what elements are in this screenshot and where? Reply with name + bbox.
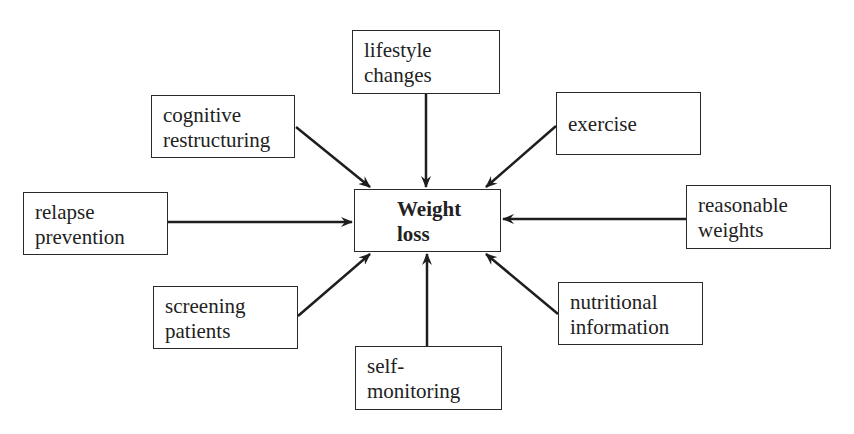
node-line: self- xyxy=(367,354,501,379)
node-line: patients xyxy=(165,319,297,344)
node-line: reasonable xyxy=(698,193,830,218)
arrow-exercise xyxy=(486,126,556,187)
arrow-screening-patients xyxy=(298,254,370,316)
node-line: restructuring xyxy=(163,128,294,153)
arrow-cognitive-restructuring xyxy=(296,127,370,187)
arrow-nutritional-information xyxy=(486,254,558,314)
node-line: screening xyxy=(165,294,297,319)
node-line: monitoring xyxy=(367,379,501,404)
node-line: exercise xyxy=(568,112,700,137)
self-monitoring-box: self- monitoring xyxy=(355,346,502,410)
node-line: weights xyxy=(698,218,830,243)
weight-loss-line-1: Weight xyxy=(397,197,500,222)
weight-loss-diagram: Weight loss lifestyle changes cognitive … xyxy=(0,0,854,434)
nutritional-information-box: nutritional information xyxy=(558,282,703,345)
node-line: nutritional xyxy=(570,290,702,315)
lifestyle-changes-box: lifestyle changes xyxy=(352,30,500,94)
node-line: lifestyle xyxy=(364,38,499,63)
node-line: prevention xyxy=(35,225,167,250)
weight-loss-line-2: loss xyxy=(397,222,500,247)
node-line: information xyxy=(570,315,702,340)
node-line: changes xyxy=(364,63,499,88)
node-line: cognitive xyxy=(163,103,294,128)
relapse-prevention-box: relapse prevention xyxy=(23,192,168,255)
exercise-box: exercise xyxy=(556,92,701,155)
reasonable-weights-box: reasonable weights xyxy=(686,185,831,249)
cognitive-restructuring-box: cognitive restructuring xyxy=(151,95,295,158)
screening-patients-box: screening patients xyxy=(153,286,298,349)
node-line: relapse xyxy=(35,200,167,225)
weight-loss-box: Weight loss xyxy=(354,189,501,252)
